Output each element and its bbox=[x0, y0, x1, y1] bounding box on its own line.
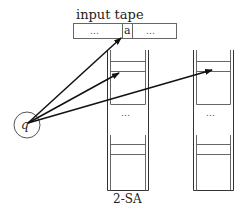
stack-1: … 2-SA bbox=[108, 50, 149, 206]
input-tape: … a … bbox=[74, 24, 177, 39]
state-q-label: q bbox=[21, 118, 29, 132]
stack-2-middle-dots: … bbox=[206, 108, 216, 118]
two-stack-automaton-diagram: input tape … a … … bbox=[0, 0, 247, 212]
tape-cell-left-dots: … bbox=[90, 26, 100, 36]
stack-1-middle-dots: … bbox=[121, 108, 131, 118]
stack-1-caption: 2-SA bbox=[113, 192, 142, 206]
tape-cell-a: a bbox=[124, 24, 131, 37]
tape-cell-right-dots: … bbox=[146, 26, 156, 36]
stack-2: … bbox=[194, 50, 234, 191]
arrow-to-stack-2-icon bbox=[28, 70, 212, 123]
input-tape-label: input tape bbox=[76, 7, 144, 22]
